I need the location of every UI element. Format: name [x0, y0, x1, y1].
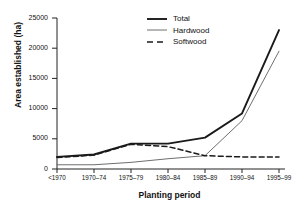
chart-legend: Total Hardwood Softwood	[146, 13, 209, 48]
legend-label-hardwood: Hardwood	[173, 25, 209, 37]
x-tick-label: 1985–89	[184, 174, 226, 181]
y-tick-label: 15000	[14, 74, 48, 81]
series-line-hardwood	[57, 51, 279, 165]
x-tick-label: 1975–79	[110, 174, 152, 181]
legend-swatch-softwood	[146, 37, 168, 47]
y-tick-label: 5000	[14, 134, 48, 141]
y-tick-label: 0	[14, 165, 48, 172]
data-series-group	[57, 30, 279, 165]
y-tick-label: 10000	[14, 104, 48, 111]
y-tick-label: 25000	[14, 14, 48, 21]
series-line-softwood	[57, 144, 279, 157]
x-tick-label: <1970	[36, 174, 78, 181]
legend-swatch-total	[146, 14, 168, 24]
x-tick-label: 1995–99	[258, 174, 300, 181]
x-axis-label: Planting period	[57, 190, 282, 200]
legend-item-softwood: Softwood	[146, 36, 209, 48]
legend-swatch-hardwood	[146, 25, 168, 35]
x-axis-tick-marks	[57, 169, 279, 173]
legend-label-total: Total	[173, 13, 190, 25]
x-tick-label: 1970–74	[73, 174, 115, 181]
series-line-total	[57, 30, 279, 157]
y-axis-tick-marks	[52, 18, 57, 169]
legend-item-hardwood: Hardwood	[146, 25, 209, 37]
chart-figure: Area established (ha) Planting period 05…	[0, 0, 306, 210]
x-tick-label: 1990–94	[221, 174, 263, 181]
legend-label-softwood: Softwood	[173, 36, 206, 48]
x-tick-label: 1980–84	[147, 174, 189, 181]
legend-item-total: Total	[146, 13, 209, 25]
y-tick-label: 20000	[14, 44, 48, 51]
